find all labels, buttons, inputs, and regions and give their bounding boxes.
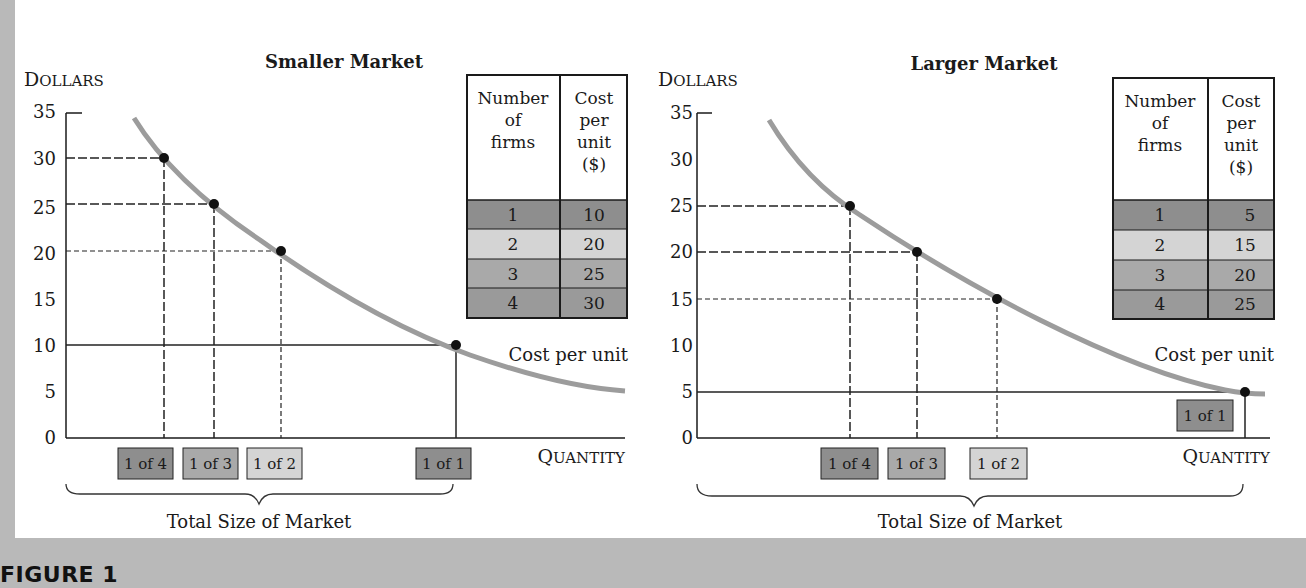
svg-text:1: 1: [508, 205, 519, 225]
connector-lines: [66, 158, 456, 438]
svg-text:per: per: [579, 110, 609, 130]
chart-larger-market: Larger Market DOLLARS 0 5 10 15 20 25 30…: [658, 53, 1275, 532]
svg-text:1 of 1: 1 of 1: [1183, 407, 1226, 425]
svg-text:Cost: Cost: [1222, 91, 1261, 111]
svg-text:35: 35: [670, 102, 693, 123]
svg-text:firms: firms: [1138, 135, 1182, 155]
svg-text:1 of 3: 1 of 3: [895, 455, 938, 473]
svg-text:15: 15: [33, 289, 56, 310]
svg-text:3: 3: [508, 264, 519, 284]
svg-text:1 of 2: 1 of 2: [977, 455, 1020, 473]
svg-text:30: 30: [583, 293, 605, 313]
figure-caption-label: FIGURE 1: [0, 562, 118, 587]
svg-text:20: 20: [33, 243, 56, 264]
svg-text:per: per: [1226, 113, 1256, 133]
svg-text:Number: Number: [1124, 91, 1196, 111]
figure-svg: Smaller Market DOLLARS 0 5 10 15 20 25 3…: [0, 0, 1306, 588]
svg-text:15: 15: [1234, 235, 1256, 255]
svg-text:25: 25: [583, 264, 605, 284]
y-tick-labels: 0 5 10 15 20 25 30 35: [670, 102, 693, 448]
svg-text:1 of 1: 1 of 1: [422, 455, 465, 473]
curve-label: Cost per unit: [1155, 344, 1275, 365]
curve-label: Cost per unit: [509, 344, 629, 365]
share-boxes: 1 of 4 1 of 3 1 of 2 1 of 1: [821, 400, 1233, 479]
svg-text:0: 0: [45, 427, 56, 448]
svg-text:10: 10: [670, 335, 693, 356]
svg-text:of: of: [1152, 113, 1170, 133]
svg-text:1 of 4: 1 of 4: [124, 455, 167, 473]
svg-text:5: 5: [682, 381, 693, 402]
x-axis-label: QUANTITY: [1182, 445, 1271, 467]
svg-text:1 of 2: 1 of 2: [253, 455, 296, 473]
y-tick-labels: 0 5 10 15 20 25 30 35: [33, 101, 56, 448]
svg-text:0: 0: [682, 427, 693, 448]
svg-text:35: 35: [33, 101, 56, 122]
svg-text:4: 4: [508, 293, 519, 313]
svg-text:3: 3: [1155, 265, 1166, 285]
svg-text:of: of: [505, 110, 523, 130]
svg-text:10: 10: [583, 205, 605, 225]
brace-label: Total Size of Market: [167, 511, 352, 532]
svg-text:2: 2: [1155, 235, 1166, 255]
svg-text:firms: firms: [491, 132, 535, 152]
svg-text:unit: unit: [1224, 135, 1258, 155]
market-size-brace: [697, 484, 1243, 506]
svg-text:1 of 4: 1 of 4: [828, 455, 871, 473]
data-table: Number of firms Cost per unit ($) 1 5 2 …: [1113, 78, 1274, 319]
svg-text:($): ($): [1229, 157, 1253, 177]
svg-text:2: 2: [508, 234, 519, 254]
y-axis-label: DOLLARS: [24, 68, 104, 90]
svg-text:20: 20: [1234, 265, 1256, 285]
svg-text:1: 1: [1155, 205, 1166, 225]
svg-text:unit: unit: [577, 132, 611, 152]
svg-text:30: 30: [33, 148, 56, 169]
x-axis-label: QUANTITY: [537, 445, 626, 467]
chart-smaller-market: Smaller Market DOLLARS 0 5 10 15 20 25 3…: [24, 51, 629, 532]
svg-text:Number: Number: [477, 88, 549, 108]
svg-text:30: 30: [670, 149, 693, 170]
svg-text:25: 25: [33, 197, 56, 218]
svg-text:1 of 3: 1 of 3: [189, 455, 232, 473]
chart-title: Smaller Market: [265, 51, 424, 72]
y-axis-label: DOLLARS: [658, 68, 738, 90]
brace-label: Total Size of Market: [878, 511, 1063, 532]
market-size-brace: [66, 484, 453, 504]
svg-text:20: 20: [583, 234, 605, 254]
svg-text:15: 15: [670, 289, 693, 310]
svg-text:($): ($): [582, 154, 606, 174]
data-table: Number of firms Cost per unit ($) 1 10 2…: [467, 75, 627, 318]
svg-text:4: 4: [1155, 294, 1166, 314]
svg-text:20: 20: [670, 241, 693, 262]
svg-text:Cost: Cost: [575, 88, 614, 108]
share-boxes: 1 of 4 1 of 3 1 of 2 1 of 1: [118, 448, 471, 479]
chart-title: Larger Market: [911, 53, 1059, 74]
svg-text:10: 10: [33, 335, 56, 356]
svg-text:5: 5: [1245, 205, 1256, 225]
svg-text:5: 5: [45, 381, 56, 402]
svg-text:25: 25: [670, 195, 693, 216]
svg-text:25: 25: [1234, 294, 1256, 314]
